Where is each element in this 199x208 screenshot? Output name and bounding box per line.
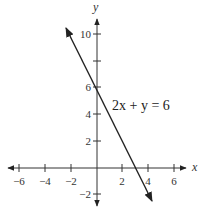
graph: −6 −4 −2 2 4 6 10 6 4 2 −2 x y 2x + y = … [0,0,199,208]
line-2x-plus-y-equals-6 [66,28,152,201]
x-tick-label: −4 [39,175,51,187]
x-tick-label: 4 [145,175,151,187]
y-tick-label: 4 [86,108,92,120]
x-tick-label: −6 [13,175,25,187]
y-tick-label: 2 [86,135,92,147]
x-axis-label: x [191,160,198,174]
x-tick-label: 6 [171,175,177,187]
equation-label: 2x + y = 6 [112,98,170,113]
y-tick-label: −2 [79,188,91,200]
x-tick-label: 2 [119,175,125,187]
y-tick-label: 6 [86,81,92,93]
y-tick-label: 10 [80,28,92,40]
y-axis-label: y [92,0,99,14]
x-tick-label: −2 [65,175,77,187]
